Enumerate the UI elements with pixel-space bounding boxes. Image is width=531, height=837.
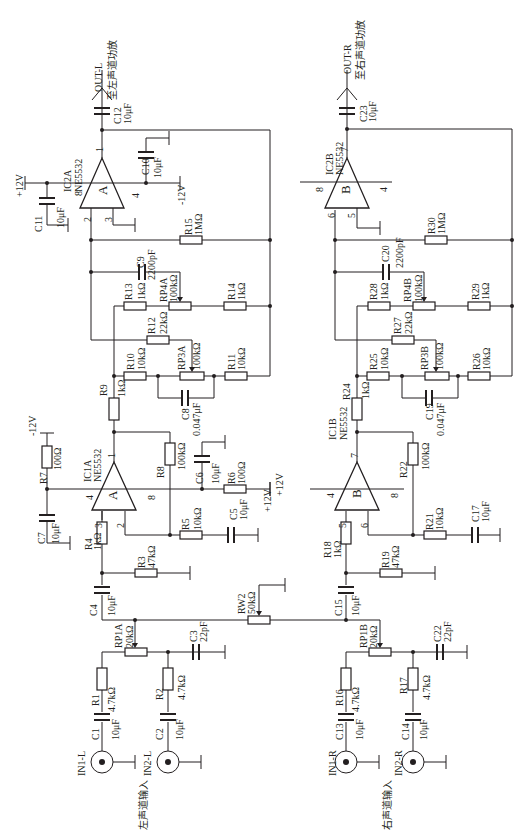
ic2b-pin-noninv: 5 bbox=[346, 213, 357, 218]
c22-value: 22pF bbox=[442, 621, 453, 642]
ic1a-unit: A bbox=[107, 491, 118, 500]
c6-name: C6 bbox=[194, 472, 205, 484]
rp3b-name: RP3B bbox=[419, 346, 430, 370]
ic1a-pin-vpos: 8 bbox=[146, 495, 157, 500]
ic1b-name: IC1B bbox=[327, 418, 338, 440]
ic2a-pin-vneg: 4 bbox=[130, 193, 141, 198]
ic1b-pin-out: 7 bbox=[349, 453, 360, 458]
r27-value: 22kΩ bbox=[403, 312, 414, 334]
ic1b-part: NE5532 bbox=[338, 407, 349, 440]
ic1b-pin-inv: 6 bbox=[359, 523, 370, 528]
r13-value: 1kΩ bbox=[136, 283, 147, 300]
r27-name: R27 bbox=[392, 317, 403, 334]
r12-name: R12 bbox=[146, 317, 157, 334]
r21-value: 10kΩ bbox=[434, 508, 445, 530]
r5-name: R5 bbox=[180, 518, 191, 530]
jack-in1-r bbox=[335, 751, 379, 773]
c11-value: 10μF bbox=[55, 207, 66, 228]
rp3a-value: 100kΩ bbox=[191, 343, 202, 370]
r9-value: 1kΩ bbox=[116, 380, 127, 397]
c19-name: C19 bbox=[424, 403, 435, 420]
supply-neg-ic1a: -12V bbox=[27, 415, 38, 436]
supply-pos-ic1b: +12V bbox=[274, 473, 285, 496]
ic1a-pin-noninv: 3 bbox=[93, 523, 104, 528]
c15-value: 10μF bbox=[350, 595, 361, 616]
r11-value: 10kΩ bbox=[236, 348, 247, 370]
r17-value: 4.7kΩ bbox=[421, 675, 432, 700]
c19-value: 0.047μF bbox=[435, 403, 446, 436]
ic1a-part: NE5532 bbox=[92, 449, 103, 482]
supply-pos-ic2a: +12V bbox=[14, 174, 25, 197]
r15-value: 1MΩ bbox=[193, 214, 204, 235]
c15-name: C15 bbox=[333, 599, 344, 616]
rp1b-value: 20kΩ bbox=[368, 626, 379, 648]
r24-value: 1kΩ bbox=[360, 382, 371, 399]
r22-value: 100kΩ bbox=[420, 443, 431, 470]
c11-name: C11 bbox=[33, 216, 44, 232]
r3-value: 47kΩ bbox=[146, 546, 157, 568]
r10-value: 10kΩ bbox=[136, 348, 147, 370]
c1-name: C1 bbox=[90, 728, 101, 740]
c17-value: 10μF bbox=[480, 501, 491, 522]
jack-in2-r bbox=[402, 751, 446, 773]
c13-name: C13 bbox=[334, 723, 345, 740]
c14-name: C14 bbox=[400, 723, 411, 740]
r14-value: 1kΩ bbox=[236, 283, 247, 300]
r26-value: 10kΩ bbox=[481, 348, 492, 370]
r9-name: R9 bbox=[98, 384, 109, 396]
c5-value: 10μF bbox=[238, 499, 249, 520]
r7-value: 100Ω bbox=[52, 448, 63, 470]
ic2a-unit: A bbox=[97, 186, 108, 195]
c23-value: 10μF bbox=[367, 101, 378, 122]
r30-value: 1MΩ bbox=[436, 213, 447, 234]
output-label-left: OUT-L bbox=[93, 63, 104, 92]
c13-value: 10μF bbox=[354, 719, 365, 740]
ic2a-part: NE5532 bbox=[73, 159, 84, 192]
supply-pos-ic1a: +12V bbox=[262, 489, 273, 512]
r12-value: 22kΩ bbox=[158, 312, 169, 334]
r25-value: 10kΩ bbox=[379, 348, 390, 370]
c4-name: C4 bbox=[88, 604, 99, 616]
c10-value: 10μF bbox=[152, 157, 163, 178]
c3-value: 22pF bbox=[198, 621, 209, 642]
ic2b-pin-vneg: 4 bbox=[378, 187, 389, 192]
c7-name: C7 bbox=[36, 532, 47, 544]
jack-in1-l-label: IN1-L bbox=[76, 751, 87, 776]
ic2a-name: IC2A bbox=[62, 170, 73, 192]
r13-name: R13 bbox=[123, 283, 134, 300]
input-caption-left: 左声道输入 bbox=[138, 780, 149, 830]
c4-value: 10μF bbox=[106, 595, 117, 616]
c7-value: 10μF bbox=[50, 523, 61, 544]
rp1a-name: RP1A bbox=[113, 624, 124, 648]
rp3b-value: 100kΩ bbox=[434, 343, 445, 370]
ic1b-pin-vneg: 4 bbox=[325, 493, 336, 498]
ic2b-pin-vpos: 8 bbox=[314, 187, 325, 192]
r24-name: R24 bbox=[341, 383, 352, 400]
c2-value: 10μF bbox=[174, 719, 185, 740]
rp1a-value: 20kΩ bbox=[124, 626, 135, 648]
rp4b-value: 100kΩ bbox=[413, 275, 424, 302]
ic1b-pin-vpos: 8 bbox=[389, 493, 400, 498]
r28-name: R28 bbox=[368, 283, 379, 300]
ic2b-pin-out: 7 bbox=[339, 147, 350, 152]
input-caption-right: 右声道输入 bbox=[382, 780, 393, 830]
r17-name: R17 bbox=[398, 677, 409, 694]
r8-value: 100kΩ bbox=[176, 443, 187, 470]
r29-value: 1kΩ bbox=[480, 283, 491, 300]
supply-neg-ic2a: -12V bbox=[176, 184, 187, 205]
r7-name: R7 bbox=[38, 472, 49, 484]
ic2b-pin-inv: 6 bbox=[326, 213, 337, 218]
c12-value: 10μF bbox=[122, 103, 133, 124]
r8-name: R8 bbox=[155, 466, 166, 478]
c6-value: 10μF bbox=[210, 463, 221, 484]
ic2a-pin-vpos: 8 bbox=[73, 191, 84, 196]
ic1b-pin-noninv: 5 bbox=[337, 523, 348, 528]
c9-value: 2200pF bbox=[146, 249, 157, 280]
r10-name: R10 bbox=[125, 353, 136, 370]
ic2a-pin-inv: 2 bbox=[82, 217, 93, 222]
jack-in2-l-label: IN2-L bbox=[142, 751, 153, 776]
rp4b-name: RP4B bbox=[402, 278, 413, 302]
r22-name: R22 bbox=[398, 461, 409, 478]
output-label-right: OUT-R bbox=[342, 44, 353, 74]
c2-name: C2 bbox=[154, 728, 165, 740]
